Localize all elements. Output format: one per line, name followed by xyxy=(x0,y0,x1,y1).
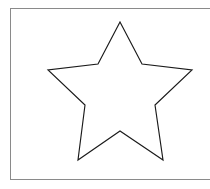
star-figure xyxy=(0,0,210,189)
five-pointed-star-icon xyxy=(48,22,192,160)
figure-canvas xyxy=(0,0,210,189)
